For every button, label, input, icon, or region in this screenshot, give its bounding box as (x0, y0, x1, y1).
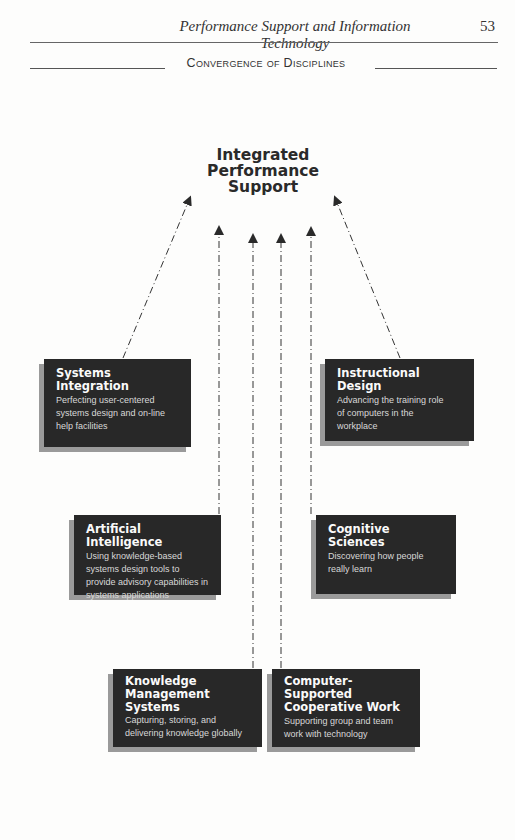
box-description: Discovering how people really learn (328, 550, 428, 576)
box-description: Advancing the training role of computers… (337, 394, 447, 433)
arrow-instructional-design (336, 200, 400, 358)
box-knowledge-management-systems: Knowledge Management Systems Capturing, … (113, 669, 262, 747)
box-cognitive-sciences: Cognitive Sciences Discovering how peopl… (316, 515, 456, 594)
box-systems-integration: Systems Integration Perfecting user-cent… (44, 359, 191, 447)
box-description: Using knowledge-based systems design too… (86, 550, 211, 602)
box-description: Perfecting user-centered systems design … (56, 394, 181, 433)
integrated-performance-support-title: Integrated Performance Support (183, 147, 343, 195)
box-description: Capturing, storing, and delivering knowl… (125, 714, 252, 740)
box-instructional-design: Instructional Design Advancing the train… (325, 359, 474, 441)
arrow-systems-integration (123, 200, 189, 358)
convergence-diagram: Integrated Performance Support Systems I… (0, 0, 515, 840)
box-description: Supporting group and team work with tech… (284, 715, 399, 741)
box-artificial-intelligence: Artificial Intelligence Using knowledge-… (74, 515, 221, 595)
box-cscw: Computer-Supported Cooperative Work Supp… (272, 669, 420, 747)
